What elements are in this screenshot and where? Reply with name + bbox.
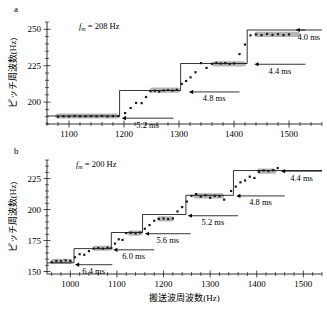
data-point [195,193,197,195]
data-point [224,62,226,64]
data-point [211,63,213,65]
data-point [93,248,95,250]
y-axis-title: ピッチ周波数(Hz) [7,38,18,109]
panel-b-plot: 1501752002251000110012001300140015006.4 … [0,152,327,317]
annotation-label: 6.0 ms [122,251,145,261]
data-point [205,67,207,69]
data-point [124,112,126,114]
data-point [263,169,265,171]
data-point [153,220,155,222]
figure-container: a 200225250110012001300140015005.2 ms4.8… [0,0,327,317]
data-point [158,91,160,93]
data-point [204,194,206,196]
annotation-label: 4.8 ms [249,197,272,207]
frequency-value: = 208 Hz [86,21,120,31]
frequency-value: = 200 Hz [83,159,117,169]
annotation-arrow-head [75,263,79,267]
data-point [209,197,211,199]
data-point [102,248,104,250]
data-point [181,83,183,85]
data-point [167,89,169,91]
x-tick-label: 1100 [60,129,78,139]
step-function-line [47,171,322,263]
data-point [114,243,116,245]
data-point [277,167,279,169]
y-tick-label: 250 [28,24,42,34]
annotation-label: 5.2 ms [202,217,225,227]
data-point [117,115,119,117]
data-point [110,247,112,249]
data-point [141,102,143,104]
data-point [255,33,257,35]
data-point [90,115,92,117]
data-point [84,115,86,117]
data-point [267,170,269,172]
y-tick-label: 150 [28,267,42,277]
data-point [134,232,136,234]
data-point [112,115,114,117]
data-point [186,200,188,202]
data-point [249,34,251,36]
y-tick-label: 225 [28,61,42,71]
y-tick-label: 225 [28,174,42,184]
data-point [171,89,173,91]
data-point [57,116,59,118]
x-tick-label: 1000 [61,279,80,289]
data-point [51,261,53,263]
data-point [121,239,123,241]
data-point [95,115,97,117]
frequency-annotation: fm = 208 Hz [79,21,120,32]
data-point [79,253,81,255]
annotation-label: 6.4 ms [82,266,105,276]
data-point [214,195,216,197]
data-point [215,62,217,64]
data-point [200,62,202,64]
annotation-label: 4.4 ms [290,173,313,183]
x-tick-label: 1200 [115,129,134,139]
data-point [249,176,251,178]
data-point [135,102,137,104]
data-point [106,115,108,117]
x-tick-label: 1500 [294,279,313,289]
data-point [185,80,187,82]
data-point [130,107,132,109]
data-point [162,217,164,219]
y-tick-label: 200 [28,97,42,107]
data-point [60,260,62,262]
data-point [97,247,99,249]
data-point [244,179,246,181]
data-point [79,115,81,117]
frequency-annotation: fm = 200 Hz [76,159,117,170]
data-point [144,228,146,230]
data-point [69,260,71,262]
data-point [101,115,103,117]
data-point [190,195,192,197]
data-point [220,62,222,64]
annotation-arrow-head [122,116,126,120]
data-point [272,169,274,171]
data-point [158,218,160,220]
annotation-arrow-head [236,194,240,198]
data-point [130,232,132,234]
data-point [223,199,225,201]
data-point [260,34,262,36]
panel-a-plot: 200225250110012001300140015005.2 ms4.8 m… [0,8,327,158]
data-point [244,43,246,45]
y-tick-label: 175 [28,236,42,246]
data-point [229,63,231,65]
x-axis-title: 搬送波周波数(Hz) [149,292,220,303]
data-point [181,206,183,208]
data-point [149,90,151,92]
data-point [218,195,220,197]
annotation-label: 4.0 ms [297,32,320,42]
data-point [118,238,120,240]
x-tick-label: 1300 [170,129,189,139]
data-point [68,115,70,117]
data-point [163,89,165,91]
y-tick-label: 200 [28,205,42,215]
step-function-line [47,30,306,116]
data-point [74,256,76,258]
data-point [73,115,75,117]
data-point [172,217,174,219]
annotation-arrow-head [281,169,285,173]
